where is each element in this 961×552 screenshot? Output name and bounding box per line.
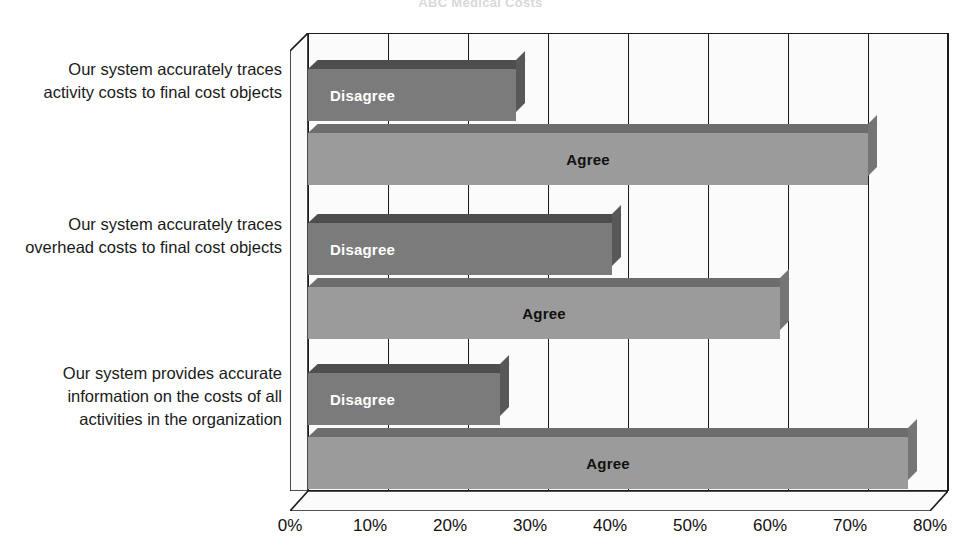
gridline [948,33,949,491]
x-tick-label: 60% [740,516,800,536]
x-tick-label: 0% [260,516,320,536]
bar-agree: Agree [308,437,908,489]
category-label: Our system accurately traces activity co… [14,58,282,104]
plot-depth-left-wall [290,33,308,491]
gridline [628,33,629,491]
bar-top-face [308,124,878,133]
bar-side-face [516,51,525,112]
x-tick-label: 30% [500,516,560,536]
plot-area: DisagreeAgreeDisagreeAgreeDisagreeAgree [308,33,948,491]
gridline [868,33,869,491]
bar-disagree: Disagree [308,69,516,121]
x-tick-label: 70% [820,516,880,536]
bar-value-label: Agree [308,437,908,489]
bar-value-label: Agree [308,133,868,185]
bar-disagree: Disagree [308,373,500,425]
x-tick-label: 20% [420,516,480,536]
bar-value-label: Disagree [330,373,395,425]
bar-top-face [308,278,790,287]
gridline [788,33,789,491]
chart-title: ABC Medical Costs [0,0,961,10]
x-tick-label: 80% [900,516,960,536]
bar-agree: Agree [308,287,780,339]
bar-side-face [612,205,621,266]
bar-top-face [308,428,918,437]
bar-top-face [308,364,510,373]
bar-value-label: Disagree [330,69,395,121]
x-tick-label: 50% [660,516,720,536]
bar-side-face [908,419,917,480]
x-tick-label: 10% [340,516,400,536]
bar-chart: ABC Medical Costs Our system accurately … [0,0,961,552]
bar-value-label: Disagree [330,223,395,275]
bar-agree: Agree [308,133,868,185]
bar-top-face [308,60,526,69]
x-tick-label: 40% [580,516,640,536]
category-label: Our system provides accurate information… [14,362,282,431]
bar-side-face [868,115,877,176]
bar-side-face [500,355,509,416]
bar-disagree: Disagree [308,223,612,275]
bar-side-face [780,269,789,330]
gridline [708,33,709,491]
bar-value-label: Agree [308,287,780,339]
category-label: Our system accurately traces overhead co… [14,213,282,259]
plot-depth-floor [290,491,948,511]
bar-top-face [308,214,622,223]
